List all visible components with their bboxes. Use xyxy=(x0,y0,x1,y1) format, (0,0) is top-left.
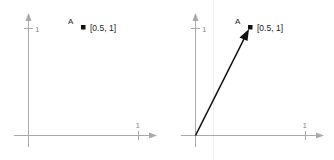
left-x-tick-label: 1 xyxy=(136,121,141,130)
right-point-a-label: A xyxy=(235,17,241,26)
left-point-a-label: A xyxy=(68,17,74,26)
right-plot-panel: 1 1 A [0.5, 1] xyxy=(167,0,334,160)
right-x-axis-arrowhead xyxy=(316,133,324,139)
left-x-axis-arrowhead xyxy=(149,133,157,139)
left-plot-panel: 1 1 A [0.5, 1] xyxy=(0,0,167,160)
right-y-axis-arrowhead xyxy=(193,13,199,21)
right-point-a-marker xyxy=(248,25,253,30)
vector-illustration-figure: 1 1 A [0.5, 1] 1 1 xyxy=(0,0,334,160)
left-y-tick-label: 1 xyxy=(35,25,40,34)
right-vector-shaft xyxy=(196,37,246,136)
right-vector-arrowhead xyxy=(240,29,250,41)
right-point-a-coords: [0.5, 1] xyxy=(257,23,283,33)
left-point-a-coords: [0.5, 1] xyxy=(90,23,116,33)
right-y-tick-label: 1 xyxy=(202,25,207,34)
right-x-tick-label: 1 xyxy=(303,121,308,130)
left-point-a-marker xyxy=(81,25,86,30)
left-y-axis-arrowhead xyxy=(26,13,32,21)
